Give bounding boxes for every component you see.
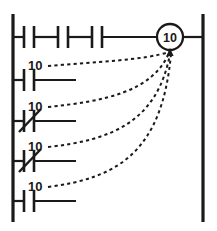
rung-4: 10 (13, 139, 76, 172)
rung-3: 10 (13, 99, 76, 132)
output-coil[interactable]: 10 (157, 24, 183, 50)
rung-3-address-label: 10 (28, 99, 42, 114)
contact-no-2[interactable] (58, 26, 68, 48)
rung-5: 10 (13, 179, 76, 212)
rung-1: 10 (13, 24, 203, 50)
output-coil-label: 10 (163, 31, 177, 45)
contact-no-1[interactable] (24, 26, 34, 48)
contact-no-3[interactable] (92, 26, 102, 48)
ladder-diagram-canvas: 10 10 10 (0, 0, 217, 231)
rung-4-address-label: 10 (28, 139, 42, 154)
ladder-diagram: 10 10 10 (0, 0, 217, 231)
rung-2: 10 (13, 58, 76, 91)
reference-link-1 (48, 52, 169, 66)
reference-links (48, 48, 174, 187)
rung-5-address-label: 10 (28, 179, 42, 194)
reference-link-3 (48, 54, 170, 147)
rung-2-address-label: 10 (28, 58, 42, 73)
